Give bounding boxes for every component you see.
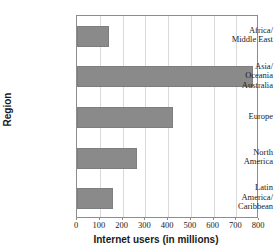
gridline — [191, 16, 192, 217]
bar[interactable] — [77, 26, 109, 47]
category-label: Europe — [202, 112, 276, 122]
bar[interactable] — [77, 107, 173, 128]
category-label: NorthAmerica — [202, 148, 276, 167]
category-label-line: Middle East — [202, 35, 273, 45]
chart-title — [76, 0, 258, 1]
category-label-line: America — [202, 157, 273, 167]
category-label-line: Caribbean — [202, 202, 273, 212]
category-label-line: Europe — [202, 112, 273, 122]
category-label: Asia/OceaniaAustralia — [202, 62, 276, 91]
category-label: Africa/Middle East — [202, 26, 276, 45]
category-label: LatinAmerica/Caribbean — [202, 183, 276, 212]
bar[interactable] — [77, 148, 137, 169]
bar[interactable] — [77, 188, 113, 209]
x-tick-label: 800 — [243, 220, 273, 230]
category-label-line: Australia — [202, 81, 273, 91]
x-axis-title: Internet users (in millions) — [36, 234, 276, 245]
chart-figure: Region Africa/Middle EastAsia/OceaniaAus… — [0, 0, 276, 251]
y-axis-title: Region — [2, 80, 13, 140]
